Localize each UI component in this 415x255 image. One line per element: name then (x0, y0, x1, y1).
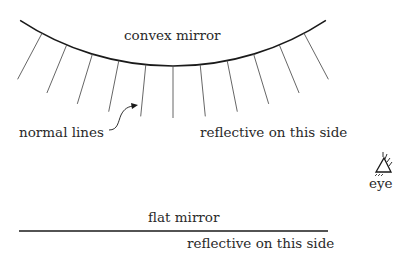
arrowhead-icon (131, 103, 138, 109)
flat-mirror-label: flat mirror (148, 209, 220, 225)
flat-reflective-label: reflective on this side (187, 235, 334, 251)
mirror-diagram: convex mirror normal lines reflective on… (0, 0, 415, 255)
eye-icon (375, 152, 392, 176)
normal-line (77, 54, 92, 104)
normal-line (304, 33, 328, 79)
normal-lines-group (18, 33, 329, 118)
normal-line (141, 65, 146, 117)
normal-line (47, 45, 67, 93)
normal-lines-label: normal lines (19, 124, 104, 140)
normal-line (279, 45, 299, 93)
normal-line (227, 61, 237, 112)
pointer-arrow-icon (109, 106, 135, 130)
normal-line (254, 54, 269, 104)
convex-mirror-label: convex mirror (124, 27, 221, 43)
eye-label: eye (369, 175, 393, 191)
normal-line (200, 65, 205, 117)
normal-line (18, 33, 42, 79)
normal-line (109, 61, 119, 112)
convex-reflective-label: reflective on this side (200, 124, 347, 140)
